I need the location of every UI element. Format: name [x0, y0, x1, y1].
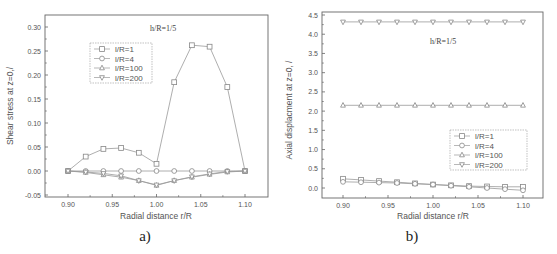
circle-marker: [449, 183, 454, 188]
square-marker: [136, 150, 141, 155]
triangle-down-marker: [431, 20, 436, 25]
circle-marker: [172, 169, 177, 174]
x-tick-label: 0.90: [336, 202, 350, 209]
y-tick-label: 4.0: [308, 31, 318, 38]
square-marker: [83, 154, 88, 159]
triangle-up-marker: [521, 103, 526, 108]
x-tick-label: 0.90: [61, 201, 75, 208]
figure: 0.900.951.001.051.10-0.050.000.050.100.1…: [0, 0, 557, 254]
triangle-down-marker: [521, 20, 526, 25]
legend-label: l/R=4: [115, 55, 134, 64]
triangle-up-marker: [377, 103, 382, 108]
triangle-up-marker: [431, 103, 436, 108]
triangle-up-marker: [449, 103, 454, 108]
annotation-label: h/R=1/5: [430, 37, 456, 46]
circle-marker: [341, 179, 346, 184]
x-tick-label: 1.05: [194, 201, 208, 208]
y-tick-label: 0.05: [27, 144, 41, 151]
triangle-up-marker: [359, 103, 364, 108]
y-tick-label: 0.25: [27, 48, 41, 55]
x-tick-label: 1.10: [516, 202, 530, 209]
chart-b: 0.900.951.001.051.100.00.51.01.52.02.53.…: [284, 12, 543, 246]
x-tick-label: 1.00: [426, 202, 440, 209]
square-marker: [225, 85, 230, 90]
y-tick-label: 3.0: [308, 69, 318, 76]
x-axis-label: Radial distance r/R: [120, 211, 192, 221]
circle-marker: [136, 169, 141, 174]
legend: l/R=1l/R=4l/R=100l/R=200: [90, 43, 152, 83]
square-marker: [119, 146, 124, 151]
y-axis-label: Shear stress at z=0,/: [5, 66, 15, 145]
circle-marker: [359, 180, 364, 185]
triangle-up-marker: [341, 103, 346, 108]
triangle-down-marker: [467, 20, 472, 25]
y-tick-label: -0.05: [25, 192, 41, 199]
triangle-up-marker: [485, 103, 490, 108]
circle-marker: [413, 181, 418, 186]
circle-marker: [395, 181, 400, 186]
circle-marker: [503, 187, 508, 192]
legend-square-icon: [460, 134, 465, 139]
circle-marker: [485, 186, 490, 191]
triangle-down-marker: [413, 20, 418, 25]
y-tick-label: 2.5: [308, 88, 318, 95]
triangle-down-marker: [341, 20, 346, 25]
legend-label: l/R=100: [115, 64, 143, 73]
circle-marker: [467, 184, 472, 189]
triangle-down-marker: [503, 20, 508, 25]
legend-circle-icon: [100, 56, 105, 61]
y-tick-label: 4.5: [308, 12, 318, 19]
y-tick-label: 0.0: [308, 185, 318, 192]
legend-label: l/R=100: [475, 151, 503, 160]
triangle-down-marker: [395, 20, 400, 25]
legend-label: l/R=4: [475, 142, 494, 151]
x-tick-label: 0.95: [381, 202, 395, 209]
legend-label: l/R=200: [475, 161, 503, 170]
x-tick-label: 1.10: [238, 201, 252, 208]
y-tick-label: 0.30: [27, 24, 41, 31]
y-tick-label: 3.5: [308, 50, 318, 57]
annotation-label: h/R=1/5: [150, 24, 176, 33]
figure-caption: a): [139, 228, 151, 245]
legend-label: l/R=1: [115, 45, 134, 54]
circle-marker: [154, 169, 159, 174]
x-tick-label: 0.95: [105, 201, 119, 208]
legend-circle-icon: [460, 143, 465, 148]
triangle-down-marker: [359, 20, 364, 25]
square-marker: [172, 80, 177, 85]
legend-label: l/R=1: [475, 132, 494, 141]
square-marker: [101, 147, 106, 152]
y-tick-label: 0.10: [27, 120, 41, 127]
figure-caption: b): [406, 228, 419, 245]
triangle-up-marker: [395, 103, 400, 108]
y-tick-label: 0.5: [308, 165, 318, 172]
triangle-down-marker: [377, 20, 382, 25]
square-marker: [207, 44, 212, 49]
circle-marker: [119, 169, 124, 174]
legend-square-icon: [100, 47, 105, 52]
triangle-up-marker: [467, 103, 472, 108]
triangle-down-marker: [485, 20, 490, 25]
x-tick-label: 1.05: [471, 202, 485, 209]
legend-label: l/R=200: [115, 74, 143, 83]
circle-marker: [190, 169, 195, 174]
y-tick-label: 0.15: [27, 96, 41, 103]
y-tick-label: 2.0: [308, 108, 318, 115]
y-tick-label: 1.0: [308, 146, 318, 153]
x-tick-label: 1.00: [150, 201, 164, 208]
y-tick-label: 0.00: [27, 168, 41, 175]
circle-marker: [377, 180, 382, 185]
circle-marker: [521, 188, 526, 193]
triangle-up-marker: [413, 103, 418, 108]
circle-marker: [431, 182, 436, 187]
chart-a: 0.900.951.001.051.10-0.050.000.050.100.1…: [5, 15, 268, 245]
square-marker: [190, 43, 195, 48]
x-axis-label: Radial distance r/R: [397, 211, 469, 221]
square-marker: [154, 161, 159, 166]
legend: l/R=1l/R=4l/R=100l/R=200: [450, 130, 527, 170]
y-tick-label: 1.5: [308, 127, 318, 134]
y-axis-label: Axial displacment at z=0, /: [284, 60, 294, 160]
triangle-up-marker: [503, 103, 508, 108]
y-tick-label: 0.20: [27, 72, 41, 79]
triangle-down-marker: [449, 20, 454, 25]
